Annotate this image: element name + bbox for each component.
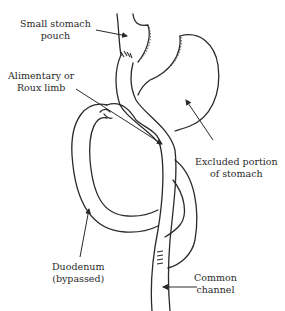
label-common-channel: Common channel xyxy=(194,272,237,296)
label-line: Roux limb xyxy=(8,82,74,94)
arrow-roux xyxy=(76,89,162,144)
arrow-pouch xyxy=(96,30,127,36)
label-line: of stomach xyxy=(195,168,278,180)
label-line: channel xyxy=(194,284,237,296)
label-line: Duodenum xyxy=(52,261,104,273)
label-line: Excluded portion xyxy=(195,156,278,168)
lower-anastomosis-marks xyxy=(157,251,163,264)
label-small-stomach-pouch: Small stomach pouch xyxy=(20,18,91,42)
label-line: Alimentary or xyxy=(8,70,74,82)
duodenum-top xyxy=(107,104,160,145)
roux-limb-left xyxy=(116,55,163,311)
label-line: pouch xyxy=(20,30,91,42)
pouch-right-wall xyxy=(133,14,149,62)
label-excluded-stomach: Excluded portion of stomach xyxy=(195,156,278,180)
label-line: Common xyxy=(194,272,237,284)
label-line: (bypassed) xyxy=(52,273,104,285)
upper-anastomosis-marks xyxy=(121,51,132,58)
excluded-stomach-top xyxy=(138,36,180,95)
gastric-bypass-diagram: Small stomach pouch Alimentary or Roux l… xyxy=(0,0,285,311)
label-duodenum: Duodenum (bypassed) xyxy=(52,261,104,285)
stomach-staple-line xyxy=(151,37,181,80)
roux-limb-right xyxy=(131,63,176,311)
arrow-duodenum xyxy=(80,209,89,257)
label-alimentary-limb: Alimentary or Roux limb xyxy=(8,70,74,94)
arrow-excluded xyxy=(186,100,213,140)
label-line: Small stomach xyxy=(20,18,91,30)
